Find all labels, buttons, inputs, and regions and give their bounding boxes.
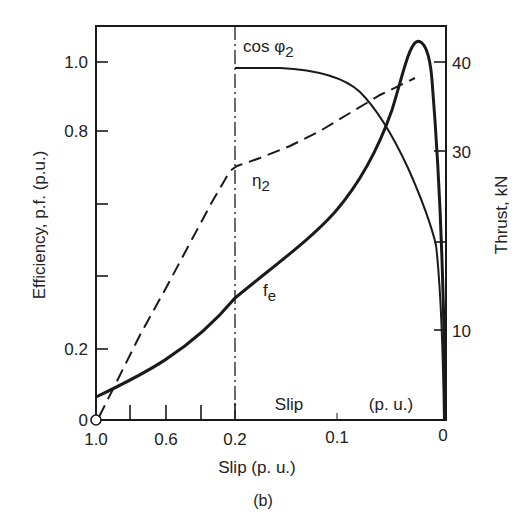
right-axis-labels: 10 30 40 — [452, 54, 471, 341]
y-right-tick-10: 10 — [452, 322, 471, 341]
svg-text:cos φ2: cos φ2 — [243, 37, 294, 60]
x-tick-0.6: 0.6 — [154, 430, 178, 449]
eta-subscript: 2 — [261, 177, 269, 194]
chart: 0 0.2 0.8 1.0 Efficiency, p.f. (p.u.) 10… — [0, 0, 527, 523]
cos-phi-text: cos φ — [243, 37, 285, 56]
x-tick-0: 0 — [438, 426, 447, 445]
x-axis-title: Slip (p. u.) — [218, 458, 295, 477]
x-tick-0.1: 0.1 — [325, 428, 349, 447]
y-left-tick-0.2: 0.2 — [64, 340, 88, 359]
svg-text:η2: η2 — [252, 171, 270, 194]
figure-caption: (b) — [253, 492, 273, 509]
x-tick-0.2: 0.2 — [223, 430, 247, 449]
y-left-axis-title: Efficiency, p.f. (p.u.) — [30, 151, 49, 300]
bottom-axis-ticks — [130, 403, 337, 420]
fe-subscript: e — [268, 287, 276, 304]
x-tick-1.0: 1.0 — [84, 430, 108, 449]
cos-phi2-label: cos φ2 — [243, 37, 294, 60]
y-right-axis-title: Thrust, kN — [492, 176, 511, 254]
y-left-tick-0: 0 — [79, 411, 88, 430]
x-axis-inner-unit: (p. u.) — [369, 395, 413, 414]
cos-phi2-curve — [235, 68, 444, 420]
left-axis-ticks — [96, 62, 108, 349]
y-left-tick-1.0: 1.0 — [64, 53, 88, 72]
bottom-axis-labels: 1.0 0.6 0.2 0.1 0 — [84, 426, 448, 449]
svg-text:fe: fe — [263, 281, 276, 304]
cos-phi-subscript: 2 — [285, 43, 293, 60]
y-right-tick-40: 40 — [452, 54, 471, 73]
left-axis-labels: 0 0.2 0.8 1.0 — [64, 53, 88, 430]
x-axis-inner-title: Slip — [275, 395, 303, 414]
fe-label: fe — [263, 281, 276, 304]
eta2-curve — [99, 78, 415, 417]
plot-frame — [96, 26, 446, 420]
y-left-tick-0.8: 0.8 — [64, 122, 88, 141]
fe-curve — [96, 41, 445, 420]
eta2-label: η2 — [252, 171, 270, 194]
eta-text: η — [252, 171, 261, 190]
y-right-tick-30: 30 — [452, 143, 471, 162]
